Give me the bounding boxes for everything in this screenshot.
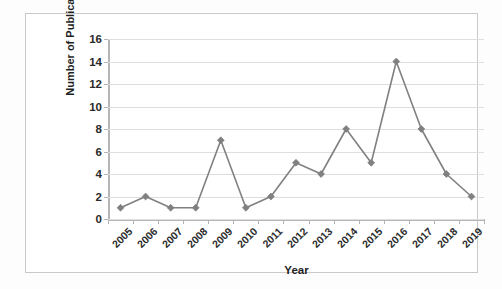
x-tick-mark-14	[459, 220, 460, 224]
x-tick-label-2016: 2016	[385, 225, 410, 250]
x-tick-mark-7	[283, 220, 284, 224]
x-tick-label-2014: 2014	[335, 225, 360, 250]
chart-figure: Number of Publications 0246810121416 200…	[0, 0, 502, 289]
x-tick-label-2009: 2009	[209, 225, 234, 250]
x-tick-label-2007: 2007	[159, 225, 184, 250]
plot-area	[108, 39, 484, 219]
x-axis-tick-labels: 2005200620072008200920102011201220132014…	[108, 225, 485, 261]
x-tick-label-2010: 2010	[234, 225, 259, 250]
y-tick-label-16: 16	[89, 33, 102, 45]
y-axis-tick-labels: 0246810121416	[78, 39, 102, 219]
data-series-line	[108, 39, 484, 219]
x-tick-mark-0	[108, 220, 109, 224]
y-tick-label-14: 14	[89, 56, 102, 68]
x-tick-mark-2	[158, 220, 159, 224]
x-tick-mark-15	[484, 220, 485, 224]
y-tick-label-0: 0	[96, 213, 102, 225]
x-tick-mark-3	[183, 220, 184, 224]
y-tick-label-2: 2	[96, 191, 102, 203]
data-point-2016	[393, 58, 400, 65]
y-axis-label: Number of Publications	[64, 0, 76, 109]
x-tick-label-2017: 2017	[410, 225, 435, 250]
data-point-2013	[318, 171, 325, 178]
x-tick-label-2011: 2011	[260, 225, 285, 250]
x-tick-mark-12	[409, 220, 410, 224]
x-tick-mark-8	[309, 220, 310, 224]
x-tick-mark-4	[208, 220, 209, 224]
x-tick-label-2018: 2018	[435, 225, 460, 250]
x-tick-label-2015: 2015	[360, 225, 385, 250]
data-point-2010	[242, 204, 249, 211]
x-tick-mark-11	[384, 220, 385, 224]
y-tick-label-8: 8	[96, 123, 102, 135]
y-tick-label-6: 6	[96, 146, 102, 158]
y-tick-label-4: 4	[96, 168, 102, 180]
series-polyline	[121, 62, 472, 208]
x-tick-label-2006: 2006	[134, 225, 159, 250]
x-tick-mark-9	[334, 220, 335, 224]
x-tick-label-2019: 2019	[460, 225, 485, 250]
x-tick-label-2008: 2008	[184, 225, 209, 250]
data-point-2017	[418, 126, 425, 133]
y-tick-label-10: 10	[89, 101, 102, 113]
data-point-2007	[167, 204, 174, 211]
x-tick-label-2013: 2013	[310, 225, 335, 250]
x-tick-label-2005: 2005	[109, 225, 134, 250]
x-tick-mark-5	[233, 220, 234, 224]
y-tick-label-12: 12	[89, 78, 102, 90]
data-point-2006	[142, 193, 149, 200]
x-tick-mark-6	[258, 220, 259, 224]
x-tick-mark-1	[133, 220, 134, 224]
x-tick-mark-10	[359, 220, 360, 224]
x-tick-mark-13	[434, 220, 435, 224]
x-tick-label-2012: 2012	[284, 225, 309, 250]
x-axis-label: Year	[108, 264, 485, 276]
data-point-2009	[217, 137, 224, 144]
chart-frame: Number of Publications 0246810121416 200…	[25, 13, 478, 273]
data-point-2008	[192, 204, 199, 211]
data-point-2005	[117, 204, 124, 211]
